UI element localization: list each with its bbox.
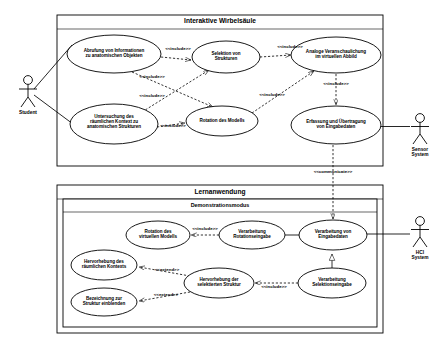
use-case-ellipse-untersuchung-kontext[interactable] [70,104,158,144]
use-case-ellipse-verarbeitung-selektionseingabe[interactable] [298,268,366,298]
use-case-ellipse-hervorhebung-selektierte[interactable] [184,268,254,298]
use-case-ellipse-bezeichnung-einblenden[interactable] [71,288,137,316]
use-case-ellipse-erfassung-uebertragung[interactable] [291,106,381,144]
use-case-ellipse-hervorhebung-kontext[interactable] [71,250,137,280]
use-case-ellipse-verarbeitung-rotationseingabe[interactable] [219,221,285,249]
use-case-ellipse-verarbeitung-eingabedaten[interactable] [299,220,367,250]
actor-sensor-system-figure [411,114,429,144]
use-case-ellipse-abrufung-informationen[interactable] [67,35,161,73]
use-case-ellipse-rotation-modells[interactable] [186,106,258,136]
actor-hci-system-figure [411,217,429,247]
diagram-canvas [0,0,447,346]
uml-use-case-diagram: Interaktive Wirbelsäule Lernanwendung De… [0,0,447,346]
use-case-ellipse-selektion-strukturen[interactable] [192,41,260,73]
actor-student-figure [19,76,37,107]
use-case-ellipse-rotation-virtuelles-modell[interactable] [126,221,190,249]
use-case-ellipse-analoge-veranschaulichung[interactable] [291,37,381,73]
